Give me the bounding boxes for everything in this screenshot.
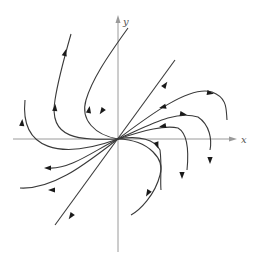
x-axis-arrow-icon <box>229 137 237 142</box>
arrowhead-icon <box>98 107 106 116</box>
arrowhead-icon <box>67 212 75 221</box>
arrowhead-icon <box>62 48 69 56</box>
trajectory-lower-right-1 <box>118 138 161 190</box>
arrowhead-icon <box>86 106 92 114</box>
direction-arrows <box>19 48 214 220</box>
trajectory-upper-left-outer <box>25 100 118 149</box>
trajectory-upper-left-mid <box>54 34 118 139</box>
arrowhead-icon <box>19 119 25 126</box>
trajectory-upper-right-2 <box>118 115 211 150</box>
y-axis-arrow-icon <box>116 15 121 23</box>
arrowhead-icon <box>161 80 169 89</box>
arrowhead-icon <box>207 157 212 164</box>
phase-portrait: x y <box>0 0 262 258</box>
arrowhead-icon <box>44 165 51 170</box>
arrowhead-icon <box>48 187 55 192</box>
arrowhead-icon <box>179 172 184 179</box>
trajectory-upper-left-inner <box>85 28 128 139</box>
arrowhead-icon <box>52 104 58 111</box>
arrowhead-icon <box>207 90 215 96</box>
arrowhead-icon <box>180 111 188 117</box>
x-axis-label: x <box>241 134 247 145</box>
trajectory-upper-right-3 <box>118 127 188 170</box>
trajectories <box>20 28 227 225</box>
y-axis-label: y <box>122 16 129 27</box>
trajectory-lower-right-2 <box>118 139 161 215</box>
